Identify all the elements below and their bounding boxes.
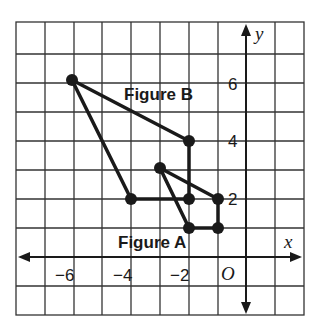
y-tick-4: 4	[228, 132, 237, 151]
y-axis-label: y	[253, 23, 264, 44]
y-axis-arrow-down-icon	[241, 302, 251, 314]
coordinate-plane: Figure B Figure A y x O −6 −4 −2 6 4 2	[0, 0, 318, 323]
y-tick-6: 6	[228, 75, 237, 94]
y-tick-2: 2	[228, 190, 237, 209]
x-axis-arrow-right-icon	[290, 252, 302, 262]
x-tick-neg2: −2	[170, 266, 189, 285]
figure-a-label: Figure A	[118, 233, 186, 252]
y-axis-arrow-up-icon	[241, 24, 251, 36]
x-axis-arrow-left-icon	[18, 252, 30, 262]
x-tick-neg6: −6	[55, 266, 74, 285]
x-axis-label: x	[283, 231, 293, 252]
x-tick-neg4: −4	[113, 266, 132, 285]
figure-b-label: Figure B	[124, 85, 193, 104]
origin-label: O	[221, 263, 235, 284]
